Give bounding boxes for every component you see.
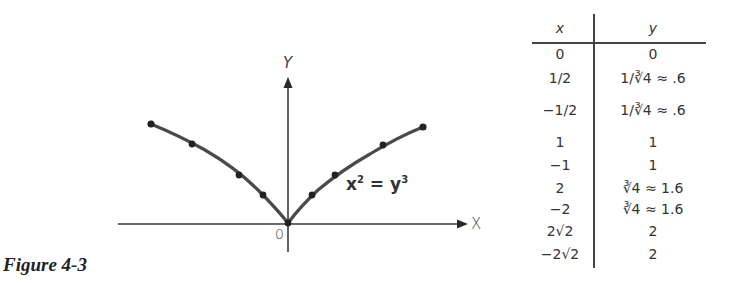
cell-x: −2√2	[530, 246, 590, 262]
table-row: 2√2 2	[530, 223, 708, 245]
table-row: 1/2 1/∛4 ≈ .6	[530, 70, 708, 92]
cell-x: −1/2	[530, 102, 590, 118]
cell-x: 2	[530, 180, 590, 196]
cell-x: −1	[530, 157, 590, 173]
x-axis-label: X	[471, 215, 481, 233]
figure-caption: Figure 4-3	[3, 254, 87, 276]
eq-rhs-exp: 3	[401, 174, 408, 185]
eq-sign: =	[364, 174, 390, 194]
eq-lhs-exp: 2	[357, 174, 364, 185]
table-row: 1 1	[530, 134, 708, 156]
cell-x: −2	[530, 201, 590, 217]
table-header: x y	[530, 20, 708, 42]
header-y: y	[598, 20, 708, 36]
cell-y: 0	[598, 46, 708, 62]
cell-y: 1/∛4 ≈ .6	[598, 102, 708, 118]
eq-rhs: y	[390, 174, 401, 194]
cell-y: 1	[598, 134, 708, 150]
cell-y: ∛4 ≈ 1.6	[598, 201, 708, 217]
cell-y: 2	[598, 246, 708, 262]
cell-y: 1	[598, 157, 708, 173]
y-axis-arrow-icon	[284, 77, 293, 88]
table-row: −1/2 1/∛4 ≈ .6	[530, 102, 708, 124]
eq-lhs: x	[346, 174, 357, 194]
equation-label: x2 = y3	[346, 174, 408, 194]
cell-y: 1/∛4 ≈ .6	[598, 70, 708, 86]
origin-label: 0	[275, 226, 284, 242]
table-row: −1 1	[530, 157, 708, 179]
table-row: −2√2 2	[530, 246, 708, 268]
table-row: 0 0	[530, 46, 708, 68]
cell-x: 1/2	[530, 70, 590, 86]
table-row: −2 ∛4 ≈ 1.6	[530, 201, 708, 223]
cell-x: 2√2	[530, 223, 590, 239]
table-row: 2 ∛4 ≈ 1.6	[530, 180, 708, 202]
cell-x: 1	[530, 134, 590, 150]
cell-x: 0	[530, 46, 590, 62]
table-header-rule	[532, 42, 706, 44]
cell-y: ∛4 ≈ 1.6	[598, 180, 708, 196]
cell-y: 2	[598, 223, 708, 239]
y-axis-label: Y	[283, 54, 292, 72]
header-x: x	[530, 20, 590, 36]
curve-left	[151, 124, 288, 223]
x-axis-arrow-icon	[457, 220, 468, 229]
